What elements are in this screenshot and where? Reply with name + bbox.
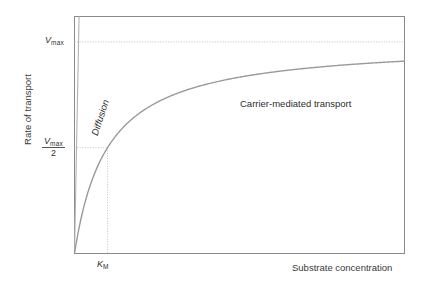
- half-vmax-numerator: Vmax: [42, 137, 65, 148]
- michaelis-menten-figure: Rate of transport Substrate concentratio…: [0, 0, 422, 283]
- x-tick-label-km: KM: [97, 259, 109, 269]
- carrier-mediated-transport-curve: [75, 61, 405, 253]
- x-axis-title: Substrate concentration: [292, 262, 392, 273]
- plot-frame: [75, 17, 405, 254]
- half-vmax-subscript: max: [50, 140, 63, 147]
- vmax-subscript: max: [51, 39, 64, 46]
- y-axis-title: Rate of transport: [22, 35, 33, 185]
- diffusion-line: [75, 17, 80, 254]
- half-vmax-denominator: 2: [42, 148, 65, 158]
- y-tick-label-vmax: Vmax: [45, 35, 64, 45]
- y-tick-label-half-vmax: Vmax 2: [42, 137, 65, 159]
- km-subscript: M: [103, 263, 109, 270]
- carrier-mediated-transport-label: Carrier-mediated transport: [240, 98, 351, 109]
